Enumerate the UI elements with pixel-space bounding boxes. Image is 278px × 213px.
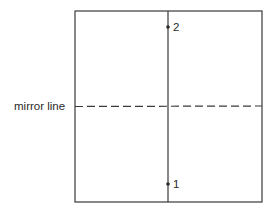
point-2-label: 2	[173, 21, 179, 33]
point-1-marker	[166, 182, 170, 186]
point-2-marker	[166, 25, 170, 29]
diagram-canvas: mirror line 2 1	[0, 0, 278, 213]
point-1-label: 1	[173, 178, 179, 190]
mirror-line-label: mirror line	[14, 100, 65, 112]
